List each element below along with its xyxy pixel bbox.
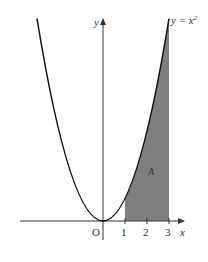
x-axis-label: x [179, 226, 185, 238]
curve-label-base: y = x [170, 14, 194, 26]
x-axis-arrow-icon [178, 218, 185, 224]
curve-label: y = x2 [170, 14, 198, 26]
region-label-a: A [147, 166, 155, 177]
tick-label-1: 1 [121, 226, 127, 238]
y-axis-label: y [93, 16, 99, 28]
parabola-diagram: 1 2 3 O x y A y = x2 [0, 0, 208, 262]
origin-label: O [92, 226, 100, 238]
shaded-region-a [125, 19, 169, 222]
curve-label-exponent: 2 [194, 14, 198, 22]
tick-label-3: 3 [165, 226, 171, 238]
y-axis-arrow-icon [100, 18, 106, 25]
tick-label-2: 2 [143, 226, 149, 238]
